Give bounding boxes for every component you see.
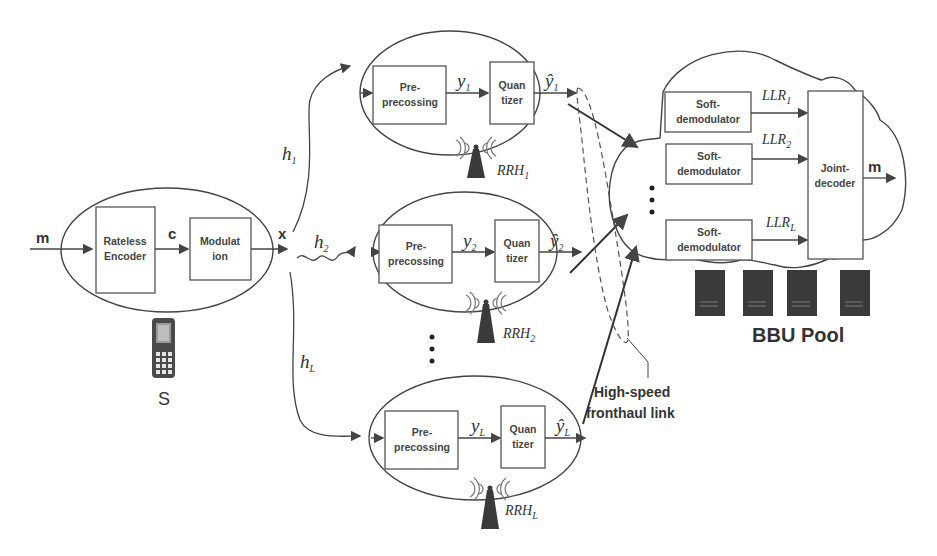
bbu-pool: Soft- demodulator Soft- demodulator Soft…: [609, 51, 905, 346]
channel-h2-label: h2: [314, 231, 329, 254]
server-icons: [695, 270, 870, 316]
preprocessing-label-1a: Pre-: [400, 81, 421, 93]
y2-label: y2: [461, 230, 476, 253]
modulation-label-1: Modulat: [200, 235, 241, 247]
server-icon-4: [840, 270, 870, 316]
antenna-tower-icon-1: [456, 137, 496, 178]
llrL-label: LLRL: [765, 215, 796, 233]
preprocessing-label-2b: precossing: [388, 255, 444, 267]
ellipsis-dots-rrh: [430, 335, 435, 364]
encoder-label-1: Rateless: [103, 235, 146, 247]
demod-label-1a: Soft-: [696, 98, 720, 110]
input-symbol: m: [36, 229, 49, 246]
yhatL-label: ŷL: [554, 415, 570, 438]
source-label: S: [158, 389, 170, 409]
yhat1-label: ŷ1: [543, 70, 558, 93]
rrh-1: Pre- precossing y1 Quan tizer ŷ1 RRH1: [360, 31, 576, 181]
decoded-output-symbol: m: [868, 158, 881, 175]
rrh-1-label: RRH1: [496, 163, 529, 181]
quantizer-label-1a: Quan: [499, 79, 526, 91]
demod-label-2a: Soft-: [697, 150, 721, 162]
preprocessing-label-Lb: precossing: [394, 441, 450, 453]
modulation-box: [190, 218, 251, 280]
mobile-phone-icon: [152, 318, 175, 378]
rrh-2: Pre- precossing y2 Quan tizer ŷ2 RRH2: [373, 192, 581, 344]
quantizer-label-La: Quan: [510, 423, 537, 435]
quantizer-label-2b: tizer: [506, 252, 528, 264]
ellipsis-dots-bbu: [650, 186, 655, 215]
preprocessing-label-1b: precossing: [382, 96, 438, 108]
rrh-L: Pre- precossing yL Quan tizer ŷL RRHL: [369, 376, 585, 529]
fronthaul-link-2: [570, 215, 627, 273]
modulation-label-2: ion: [212, 250, 228, 262]
y1-label: y1: [455, 70, 470, 93]
server-icon-3: [787, 270, 817, 316]
preprocessing-label-2a: Pre-: [406, 240, 427, 252]
rrh-L-label: RRHL: [504, 503, 538, 521]
preprocessing-label-La: Pre-: [412, 426, 433, 438]
demod-label-Lb: demodulator: [677, 241, 741, 253]
channel-h1-label: h1: [282, 143, 297, 166]
c-ran-diagram: m Rateless Encoder c Modulat ion x S h1 …: [0, 0, 937, 556]
encoder-label-2: Encoder: [104, 250, 146, 262]
quantizer-box-2: [495, 220, 539, 282]
quantizer-label-Lb: tizer: [512, 438, 534, 450]
yL-label: yL: [469, 415, 485, 438]
channel-h1-path: [293, 66, 350, 232]
quantizer-box-1: [490, 62, 534, 124]
decoder-label-2: decoder: [815, 177, 856, 189]
bbu-pool-label: BBU Pool: [752, 324, 844, 346]
preprocessing-box-L: [385, 411, 458, 469]
joint-decoder-box: [808, 91, 863, 259]
quantizer-label-1b: tizer: [501, 94, 523, 106]
fronthaul-callout-line: [627, 338, 648, 378]
server-icon-2: [743, 270, 773, 316]
quantizer-label-2a: Quan: [504, 237, 531, 249]
rrh-2-label: RRH2: [502, 326, 535, 344]
server-icon-1: [695, 270, 725, 316]
demod-label-La: Soft-: [697, 226, 721, 238]
channel-hL-label: hL: [300, 351, 316, 374]
preprocessing-box-1: [373, 66, 446, 124]
coded-symbol: c: [168, 225, 176, 242]
demod-label-2b: demodulator: [677, 165, 741, 177]
fronthaul-label-2: fronthaul link: [586, 405, 675, 421]
demod-label-1b: demodulator: [676, 113, 740, 125]
decoder-label-1: Joint-: [821, 162, 850, 174]
llr2-label: LLR2: [761, 132, 791, 150]
preprocessing-box-2: [379, 225, 452, 283]
yhat2-label: ŷ2: [548, 230, 563, 253]
llr1-label: LLR1: [761, 88, 791, 106]
antenna-tower-icon-L: [470, 478, 510, 529]
antenna-tower-icon-2: [466, 292, 506, 343]
fronthaul-label-1: High-speed: [594, 384, 670, 400]
source-node: m Rateless Encoder c Modulat ion x: [30, 188, 287, 312]
channels: h1 h2 hL: [282, 66, 360, 436]
quantizer-box-L: [501, 406, 545, 468]
output-symbol-x: x: [278, 225, 287, 242]
